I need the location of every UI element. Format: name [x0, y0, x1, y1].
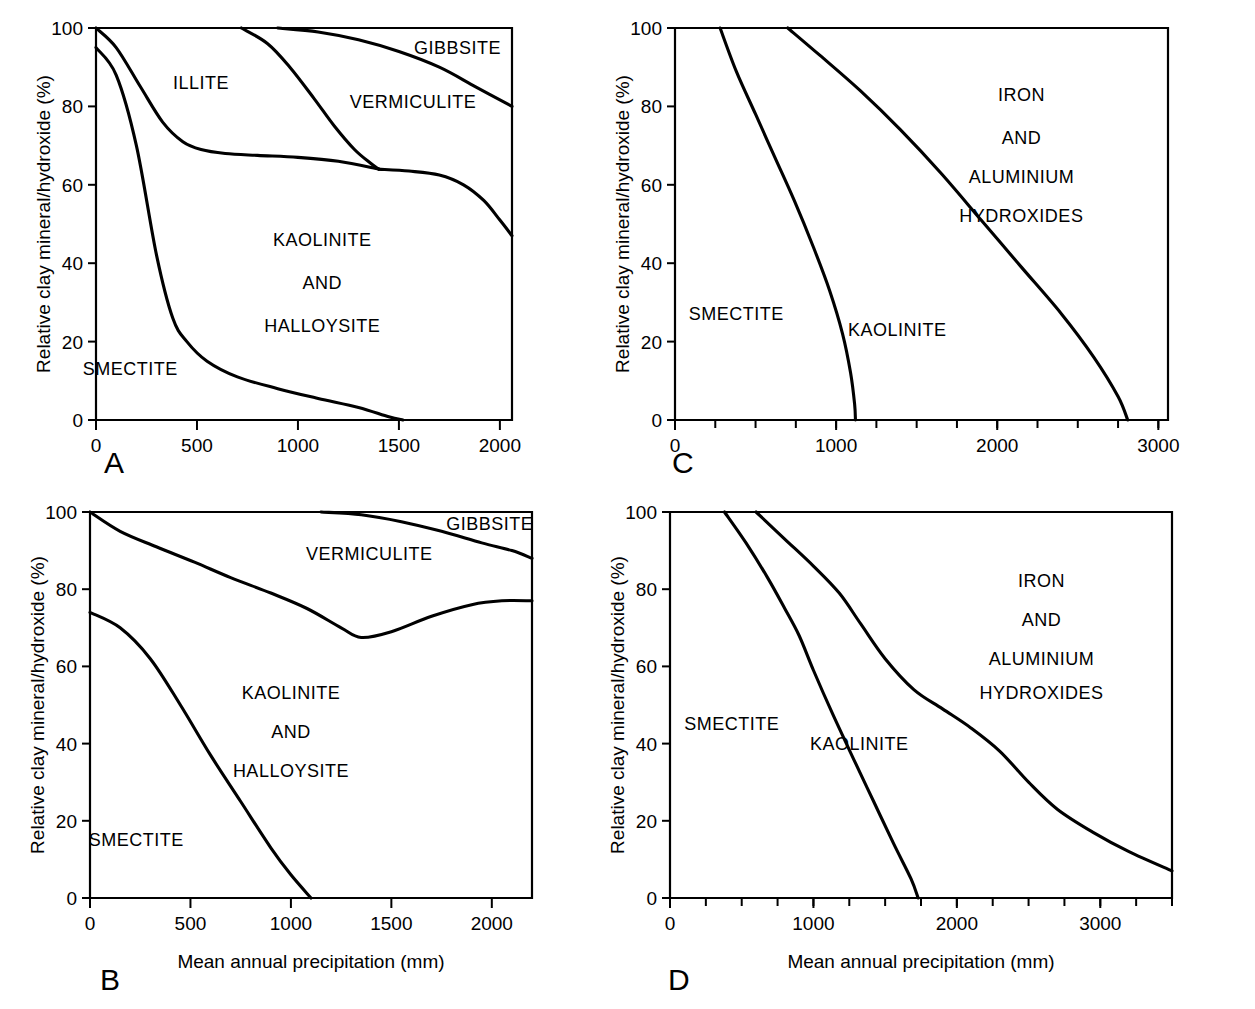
y-tick-label: 100	[51, 18, 83, 39]
region-label: KAOLINITE	[810, 734, 909, 754]
y-tick-label: 40	[636, 734, 657, 755]
y-tick-label: 60	[636, 656, 657, 677]
x-tick-label: 1000	[277, 435, 319, 456]
x-tick-label: 1000	[792, 913, 834, 934]
y-tick-label: 60	[641, 175, 662, 196]
y-tick-label: 20	[62, 332, 83, 353]
y-tick-label: 20	[636, 811, 657, 832]
region-label: ALUMINIUM	[969, 167, 1075, 187]
x-tick-label: 1500	[378, 435, 420, 456]
region-label: VERMICULITE	[306, 544, 433, 564]
panel-d-plot: 0204060801000100020003000SMECTITEKAOLINI…	[620, 490, 1255, 1009]
x-tick-label: 2000	[479, 435, 521, 456]
x-tick-label: 0	[91, 435, 102, 456]
region-label: AND	[302, 273, 342, 293]
region-label: SMECTITE	[684, 714, 779, 734]
x-tick-label: 2000	[976, 435, 1018, 456]
panel-c: 0204060801000100020003000SMECTITEKAOLINI…	[620, 0, 1255, 490]
y-axis-title: Relative clay mineral/hydroxide (%)	[612, 75, 633, 373]
region-label: HYDROXIDES	[959, 206, 1083, 226]
region-label: ILLITE	[173, 73, 229, 93]
region-label: SMECTITE	[89, 830, 184, 850]
panel-d: 0204060801000100020003000SMECTITEKAOLINI…	[620, 490, 1255, 1009]
panel-letter: C	[672, 446, 694, 479]
region-label: IRON	[998, 85, 1045, 105]
y-tick-label: 40	[641, 253, 662, 274]
region-label: AND	[271, 722, 311, 742]
region-label: AND	[1022, 610, 1062, 630]
region-label: GIBBSITE	[446, 514, 533, 534]
y-tick-label: 40	[56, 734, 77, 755]
y-axis-title: Relative clay mineral/hydroxide (%)	[27, 556, 48, 854]
y-tick-label: 0	[72, 410, 83, 431]
y-tick-label: 100	[625, 502, 657, 523]
x-tick-label: 1000	[815, 435, 857, 456]
panel-letter: A	[104, 446, 124, 479]
x-tick-label: 500	[175, 913, 207, 934]
panel-c-plot: 0204060801000100020003000SMECTITEKAOLINI…	[620, 0, 1255, 490]
region-label: HALLOYSITE	[233, 761, 349, 781]
boundary-curve	[379, 169, 512, 236]
x-tick-label: 3000	[1137, 435, 1179, 456]
x-tick-label: 1500	[370, 913, 412, 934]
region-label: KAOLINITE	[273, 230, 372, 250]
x-tick-label: 2000	[471, 913, 513, 934]
region-label: GIBBSITE	[414, 38, 501, 58]
region-label: VERMICULITE	[350, 92, 477, 112]
region-label: KAOLINITE	[242, 683, 341, 703]
x-tick-label: 500	[181, 435, 213, 456]
panel-a: 0204060801000500100015002000SMECTITEILLI…	[0, 0, 620, 490]
y-tick-label: 80	[636, 579, 657, 600]
boundary-curve	[90, 612, 311, 898]
boundary-curve	[756, 512, 1172, 871]
y-tick-label: 60	[62, 175, 83, 196]
x-tick-label: 3000	[1079, 913, 1121, 934]
x-tick-label: 1000	[270, 913, 312, 934]
y-tick-label: 100	[45, 502, 77, 523]
boundary-curve	[720, 28, 855, 420]
x-axis-title: Mean annual precipitation (mm)	[177, 951, 444, 972]
plot-frame	[675, 28, 1168, 420]
y-tick-label: 0	[66, 888, 77, 909]
y-tick-label: 20	[641, 332, 662, 353]
region-label: AND	[1002, 128, 1042, 148]
region-label: HYDROXIDES	[979, 683, 1103, 703]
region-label: ALUMINIUM	[989, 649, 1095, 669]
region-label: HALLOYSITE	[264, 316, 380, 336]
region-label: KAOLINITE	[848, 320, 947, 340]
y-tick-label: 0	[651, 410, 662, 431]
panel-letter: B	[100, 963, 120, 996]
panel-b: 0204060801000500100015002000SMECTITEKAOL…	[0, 490, 620, 1009]
y-tick-label: 0	[646, 888, 657, 909]
y-tick-label: 60	[56, 656, 77, 677]
x-tick-label: 0	[665, 913, 676, 934]
y-tick-label: 20	[56, 811, 77, 832]
x-tick-label: 0	[85, 913, 96, 934]
boundary-curve	[725, 512, 919, 898]
y-tick-label: 80	[641, 96, 662, 117]
x-axis-title: Mean annual precipitation (mm)	[787, 951, 1054, 972]
y-tick-label: 40	[62, 253, 83, 274]
panel-letter: D	[668, 963, 690, 996]
x-tick-label: 2000	[936, 913, 978, 934]
region-label: IRON	[1018, 571, 1065, 591]
y-axis-title: Relative clay mineral/hydroxide (%)	[33, 75, 54, 373]
panel-a-plot: 0204060801000500100015002000SMECTITEILLI…	[0, 0, 620, 490]
panel-b-plot: 0204060801000500100015002000SMECTITEKAOL…	[0, 490, 620, 1009]
y-tick-label: 80	[62, 96, 83, 117]
plot-frame	[670, 512, 1172, 898]
clay-mineral-precipitation-figure: 0204060801000500100015002000SMECTITEILLI…	[0, 0, 1255, 1009]
region-label: SMECTITE	[83, 359, 178, 379]
y-tick-label: 80	[56, 579, 77, 600]
region-label: SMECTITE	[689, 304, 784, 324]
y-axis-title: Relative clay mineral/hydroxide (%)	[607, 556, 628, 854]
y-tick-label: 100	[630, 18, 662, 39]
